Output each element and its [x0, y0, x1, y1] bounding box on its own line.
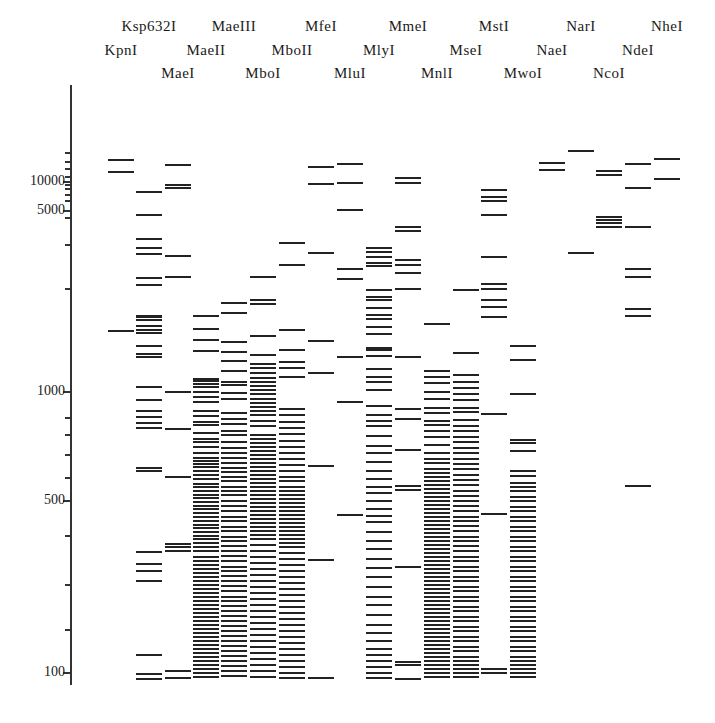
band	[395, 272, 421, 274]
band	[337, 401, 363, 403]
band	[366, 389, 392, 391]
band	[481, 283, 507, 285]
band	[424, 480, 450, 482]
tick-label: 5000	[37, 202, 65, 218]
band	[453, 596, 479, 598]
band	[395, 678, 421, 680]
band	[279, 672, 305, 674]
band	[424, 420, 450, 422]
band	[136, 329, 162, 331]
band	[165, 391, 191, 393]
band	[424, 376, 450, 378]
band	[250, 450, 276, 452]
band	[366, 299, 392, 301]
band	[424, 644, 450, 646]
band	[136, 422, 162, 424]
band	[193, 676, 219, 678]
band	[510, 560, 536, 562]
band	[221, 640, 247, 642]
band	[453, 490, 479, 492]
band	[250, 634, 276, 636]
band	[279, 666, 305, 668]
band	[424, 616, 450, 618]
band	[568, 252, 594, 254]
band	[193, 463, 219, 465]
band	[250, 402, 276, 404]
band	[424, 548, 450, 550]
band	[424, 676, 450, 678]
band	[136, 325, 162, 327]
band	[453, 540, 479, 542]
band	[279, 600, 305, 602]
band	[165, 184, 191, 186]
band	[279, 414, 305, 416]
band	[250, 420, 276, 422]
band	[510, 540, 536, 542]
band	[453, 520, 479, 522]
band	[366, 307, 392, 309]
band	[193, 636, 219, 638]
band	[250, 474, 276, 476]
band	[221, 476, 247, 478]
band	[453, 640, 479, 642]
band	[136, 238, 162, 240]
band	[424, 407, 450, 409]
band	[366, 515, 392, 517]
band	[221, 467, 247, 469]
band	[221, 351, 247, 353]
band	[366, 648, 392, 650]
band	[510, 650, 536, 652]
band	[250, 454, 276, 456]
band	[424, 492, 450, 494]
band	[165, 276, 191, 278]
band	[453, 419, 479, 421]
band	[279, 498, 305, 500]
band	[481, 413, 507, 415]
band	[453, 560, 479, 562]
band	[221, 566, 247, 568]
band	[510, 664, 536, 666]
band	[510, 506, 536, 508]
band	[366, 425, 392, 427]
band	[250, 622, 276, 624]
band	[395, 259, 421, 261]
band	[193, 644, 219, 646]
band	[424, 484, 450, 486]
band	[250, 510, 276, 512]
band	[279, 502, 305, 504]
minor-tick	[65, 477, 71, 479]
band	[193, 460, 219, 462]
band	[366, 492, 392, 494]
band	[165, 476, 191, 478]
band	[366, 478, 392, 480]
band	[250, 470, 276, 472]
band	[136, 551, 162, 553]
band	[308, 183, 334, 185]
band	[366, 355, 392, 357]
band	[366, 381, 392, 383]
band	[221, 625, 247, 627]
band	[221, 660, 247, 662]
band	[510, 556, 536, 558]
band	[193, 380, 219, 382]
minor-tick	[65, 584, 71, 586]
lane-maeiii	[221, 0, 247, 723]
band	[250, 628, 276, 630]
band	[453, 545, 479, 547]
band	[221, 665, 247, 667]
band	[221, 615, 247, 617]
band	[136, 467, 162, 469]
band	[250, 462, 276, 464]
band	[221, 510, 247, 512]
band	[395, 182, 421, 184]
band	[366, 521, 392, 523]
band	[424, 532, 450, 534]
band	[510, 586, 536, 588]
band	[510, 470, 536, 472]
band	[366, 376, 392, 378]
band	[250, 482, 276, 484]
band	[366, 540, 392, 542]
band	[221, 471, 247, 473]
band	[308, 677, 334, 679]
band	[250, 538, 276, 540]
